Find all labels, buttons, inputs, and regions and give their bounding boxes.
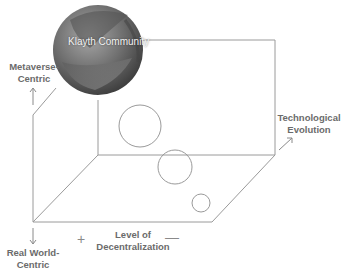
minus-sign: — bbox=[165, 230, 179, 244]
plus-sign: + bbox=[77, 232, 85, 246]
sphere-label: Klayth Community bbox=[68, 36, 149, 47]
floor-plane bbox=[33, 155, 275, 222]
real-world-centric-label: Real World- Centric bbox=[1, 247, 65, 271]
klaytn-community-sphere bbox=[53, 5, 143, 95]
technological-evolution-label: Technological Evolution bbox=[276, 112, 342, 136]
arrow-up-icon bbox=[30, 88, 36, 105]
label-line: Centric bbox=[3, 73, 65, 85]
arrow-diagonal-icon bbox=[279, 138, 292, 150]
metaverse-centric-label: Metaverse- Centric bbox=[3, 61, 65, 85]
circle-large bbox=[119, 105, 161, 147]
label-line: Metaverse- bbox=[3, 61, 65, 73]
label-line: Real World- bbox=[1, 247, 65, 259]
arrow-down-icon bbox=[30, 228, 36, 244]
label-line: Centric bbox=[1, 259, 65, 271]
label-line: Evolution bbox=[276, 124, 342, 136]
label-line: Technological bbox=[276, 112, 342, 124]
circle-small bbox=[192, 194, 210, 212]
